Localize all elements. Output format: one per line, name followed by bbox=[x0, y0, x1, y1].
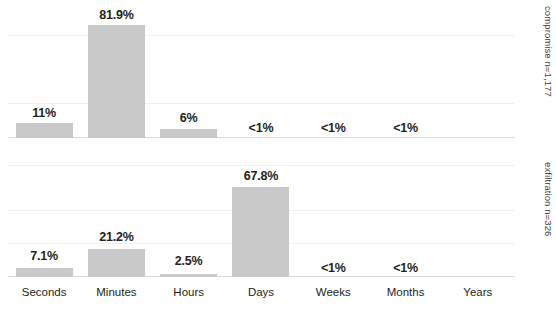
bar-slot-seconds: 7.1% bbox=[8, 148, 80, 277]
bar-group-exfiltration: 7.1% 21.2% 2.5% 67.8% <1% bbox=[8, 148, 514, 277]
side-label-compromise: compromise n=1,177 bbox=[543, 6, 554, 97]
bar-label-days: 67.8% bbox=[225, 169, 297, 183]
bar-seconds bbox=[16, 268, 73, 277]
x-tick-months: Months bbox=[369, 286, 441, 306]
bar-label-seconds: 11% bbox=[8, 106, 80, 120]
bar-label-days: <1% bbox=[297, 121, 369, 135]
x-tick-years: Years bbox=[442, 286, 514, 306]
bar-label-minutes: 21.2% bbox=[80, 230, 152, 244]
bar-slot-years bbox=[442, 148, 514, 277]
bar-group-compromise: 11% 81.9% 6% <1% <1% bbox=[8, 0, 514, 138]
bar-slot-years bbox=[442, 0, 514, 138]
bar-label-seconds: 7.1% bbox=[8, 249, 80, 263]
bar-slot-seconds: 11% bbox=[8, 0, 80, 138]
bar-slot-days: 67.8% bbox=[225, 148, 297, 277]
bar-slot-minutes: 21.2% bbox=[80, 148, 152, 277]
plot-area-exfiltration: 7.1% 21.2% 2.5% 67.8% <1% bbox=[8, 148, 514, 284]
bar-slot-hours: 2.5% bbox=[153, 148, 225, 277]
bar-label-minutes: 81.9% bbox=[80, 8, 152, 22]
bar-hours bbox=[160, 129, 217, 138]
time-to-compromise-exfiltration-chart: 11% 81.9% 6% <1% <1% bbox=[0, 0, 556, 314]
bar-label-hours: 2.5% bbox=[153, 254, 225, 268]
bar-minutes bbox=[88, 25, 145, 138]
x-axis-labels: Seconds Minutes Hours Days Weeks Months … bbox=[8, 286, 514, 306]
bar-label-hours: 6% bbox=[153, 111, 225, 125]
bar-label-weeks: <1% bbox=[225, 121, 297, 135]
bar-slot-weeks: <1% bbox=[225, 0, 297, 138]
bar-slot-minutes: 81.9% bbox=[80, 0, 152, 138]
x-tick-days: Days bbox=[225, 286, 297, 306]
x-tick-weeks: Weeks bbox=[297, 286, 369, 306]
x-tick-minutes: Minutes bbox=[80, 286, 152, 306]
bar-seconds bbox=[16, 123, 73, 138]
bar-days bbox=[232, 187, 289, 277]
x-tick-hours: Hours bbox=[153, 286, 225, 306]
side-label-exfiltration: exfiltration n=326 bbox=[543, 162, 554, 236]
bar-label-months: <1% bbox=[369, 121, 441, 135]
bar-slot-hours: 6% bbox=[153, 0, 225, 138]
bar-minutes bbox=[88, 249, 145, 277]
bar-slot-weeks: <1% bbox=[297, 148, 369, 277]
bar-slot-months: <1% bbox=[369, 0, 441, 138]
plot-area-compromise: 11% 81.9% 6% <1% <1% bbox=[8, 0, 514, 148]
bar-label-months: <1% bbox=[369, 261, 441, 275]
bar-slot-days: <1% bbox=[297, 0, 369, 138]
bar-slot-months: <1% bbox=[369, 148, 441, 277]
panel-exfiltration: 7.1% 21.2% 2.5% 67.8% <1% bbox=[0, 148, 556, 284]
bar-label-weeks: <1% bbox=[297, 261, 369, 275]
x-tick-seconds: Seconds bbox=[8, 286, 80, 306]
bar-hours bbox=[160, 274, 217, 277]
panel-compromise: 11% 81.9% 6% <1% <1% bbox=[0, 0, 556, 148]
